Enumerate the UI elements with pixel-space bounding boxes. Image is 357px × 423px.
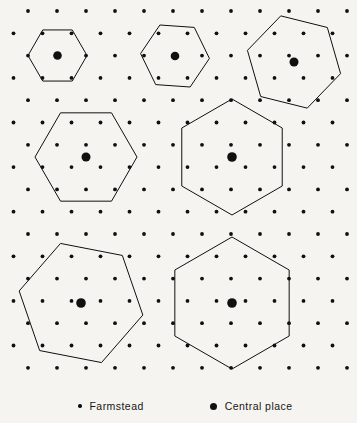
- farmstead-dot: [244, 299, 248, 303]
- farmstead-dot: [84, 143, 88, 147]
- farmstead-dot: [12, 344, 16, 348]
- farmstead-dot: [331, 165, 335, 169]
- farmstead-dot: [273, 210, 277, 214]
- farmstead-dot: [26, 98, 30, 102]
- farmstead-dot: [142, 98, 146, 102]
- farmstead-dot: [229, 321, 233, 325]
- farmstead-dot: [200, 9, 204, 13]
- farmstead-dot: [55, 188, 59, 192]
- farmstead-dot: [128, 121, 132, 125]
- farmstead-dot: [258, 277, 262, 281]
- farmstead-dot: [99, 299, 103, 303]
- farmstead-dot: [113, 9, 117, 13]
- farmstead-dot: [142, 277, 146, 281]
- farmstead-dot: [229, 188, 233, 192]
- farmstead-dot: [128, 76, 132, 80]
- farmstead-dot: [171, 188, 175, 192]
- central-place-bottom-left: [76, 298, 86, 308]
- farmstead-dot: [215, 31, 219, 35]
- farmstead-dot: [12, 31, 16, 35]
- farmstead-dot: [287, 188, 291, 192]
- farmstead-dot: [273, 31, 277, 35]
- farmstead-dot: [215, 165, 219, 169]
- farmstead-dot: [345, 54, 349, 58]
- farmstead-dot: [70, 165, 74, 169]
- farmstead-dot: [229, 143, 233, 147]
- farmstead-dot: [55, 232, 59, 236]
- legend: Farmstead Central place: [0, 391, 357, 421]
- farmstead-dot: [316, 54, 320, 58]
- farmstead-dot: [70, 31, 74, 35]
- farmstead-dot: [258, 9, 262, 13]
- farmstead-dot: [142, 143, 146, 147]
- farmstead-dot: [345, 277, 349, 281]
- farmstead-dot: [113, 277, 117, 281]
- farmstead-dot: [26, 366, 30, 370]
- farmstead-dot: [200, 232, 204, 236]
- farmstead-dot: [287, 54, 291, 58]
- farmstead-dot: [113, 321, 117, 325]
- central-place-middle-right: [227, 152, 237, 162]
- farmstead-dot: [128, 254, 132, 258]
- farmstead-dot: [171, 143, 175, 147]
- farmstead-dot-icon: [78, 404, 82, 408]
- farmstead-dot: [287, 143, 291, 147]
- farmstead-dot: [99, 210, 103, 214]
- farmstead-dot: [302, 210, 306, 214]
- farmstead-dot: [229, 54, 233, 58]
- farmstead-dot: [229, 232, 233, 236]
- farmstead-dot: [41, 121, 45, 125]
- farmstead-dot: [12, 254, 16, 258]
- farmstead-dot: [273, 299, 277, 303]
- farmstead-dot: [26, 188, 30, 192]
- central-place-dot-icon: [210, 403, 217, 410]
- legend-item-central-place: Central place: [210, 400, 293, 412]
- farmstead-dot: [258, 188, 262, 192]
- central-place-top-left: [53, 51, 62, 60]
- farmstead-dot: [84, 277, 88, 281]
- farmstead-dot: [171, 321, 175, 325]
- farmstead-dot: [244, 76, 248, 80]
- farmstead-dot: [258, 321, 262, 325]
- farmstead-dot: [345, 321, 349, 325]
- farmstead-dot: [142, 232, 146, 236]
- farmstead-dot: [142, 188, 146, 192]
- diagram-canvas: [0, 0, 357, 423]
- farmstead-dot: [12, 210, 16, 214]
- farmstead-dot: [41, 210, 45, 214]
- farmstead-dot: [186, 165, 190, 169]
- farmstead-dot: [258, 98, 262, 102]
- farmstead-dot: [186, 76, 190, 80]
- farmstead-dot: [302, 121, 306, 125]
- farmstead-dot: [200, 321, 204, 325]
- farmstead-dot: [171, 232, 175, 236]
- farmstead-dot: [70, 210, 74, 214]
- farmstead-dot: [99, 76, 103, 80]
- farmstead-dot: [316, 366, 320, 370]
- farmstead-dot: [287, 9, 291, 13]
- farmstead-dot: [331, 121, 335, 125]
- farmstead-dot: [26, 232, 30, 236]
- farmstead-dot: [99, 31, 103, 35]
- farmstead-dot: [215, 210, 219, 214]
- farmstead-dot: [157, 210, 161, 214]
- farmstead-dot: [157, 121, 161, 125]
- farmstead-dot: [200, 366, 204, 370]
- central-place-diagram: Farmstead Central place: [0, 0, 357, 423]
- central-place-top-center: [171, 52, 180, 61]
- farmstead-dot: [345, 188, 349, 192]
- farmstead-dot: [244, 165, 248, 169]
- farmstead-dot: [331, 299, 335, 303]
- farmstead-dot: [84, 366, 88, 370]
- farmstead-dot: [316, 232, 320, 236]
- farmstead-dot: [273, 76, 277, 80]
- farmstead-dot: [70, 299, 74, 303]
- farmstead-dot: [55, 366, 59, 370]
- legend-label-farmstead: Farmstead: [90, 400, 144, 412]
- farmstead-dot: [345, 232, 349, 236]
- farmstead-dot: [70, 121, 74, 125]
- farmstead-dot: [186, 31, 190, 35]
- farmstead-dot: [113, 143, 117, 147]
- farmstead-dot: [113, 232, 117, 236]
- farmstead-dot: [171, 98, 175, 102]
